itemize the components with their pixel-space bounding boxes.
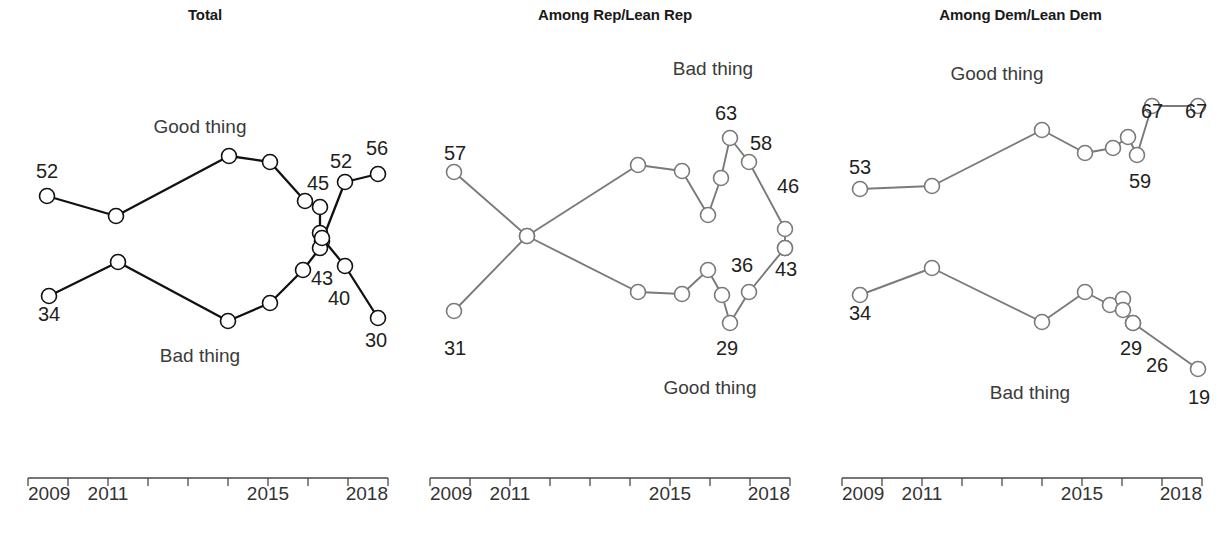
axis-tick-label: 2009: [842, 483, 884, 504]
data-point[interactable]: [313, 200, 328, 215]
chart-svg-total: Good thingBad thing524552563443403020092…: [0, 0, 410, 536]
value-label: 57: [444, 142, 466, 164]
data-point[interactable]: [742, 285, 757, 300]
series-good-thing: [447, 165, 793, 331]
value-label: 40: [328, 287, 350, 309]
data-point[interactable]: [723, 316, 738, 331]
panel-title-rep: Among Rep/Lean Rep: [410, 6, 820, 23]
axis-tick-label: 2015: [1061, 483, 1103, 504]
value-label: 19: [1188, 386, 1210, 408]
value-label: 58: [750, 132, 772, 154]
data-point[interactable]: [338, 175, 353, 190]
axis-tick-label: 2009: [430, 483, 472, 504]
data-point[interactable]: [714, 171, 729, 186]
data-point[interactable]: [40, 189, 55, 204]
value-label: 67: [1141, 100, 1163, 122]
x-axis: [430, 478, 790, 486]
data-point[interactable]: [1035, 315, 1050, 330]
value-label: 31: [444, 337, 466, 359]
series-name-label: Bad thing: [673, 58, 753, 79]
value-label: 26: [1146, 354, 1168, 376]
data-point[interactable]: [371, 167, 386, 182]
data-point[interactable]: [1078, 285, 1093, 300]
data-point[interactable]: [1106, 141, 1121, 156]
series-line: [454, 172, 785, 323]
series-name-label: Bad thing: [160, 345, 240, 366]
axis-tick-label: 2015: [247, 483, 289, 504]
axis-tick-label: 2009: [28, 483, 70, 504]
data-point[interactable]: [296, 263, 311, 278]
data-point[interactable]: [315, 231, 330, 246]
data-point[interactable]: [1126, 316, 1141, 331]
data-point[interactable]: [298, 194, 313, 209]
data-point[interactable]: [701, 208, 716, 223]
data-point[interactable]: [631, 158, 646, 173]
chart-panel-total: Total Good thingBad thing524552563443403…: [0, 0, 410, 536]
data-point[interactable]: [1116, 303, 1131, 318]
value-label: 46: [777, 175, 799, 197]
data-point[interactable]: [675, 164, 690, 179]
data-point[interactable]: [338, 259, 353, 274]
data-point[interactable]: [42, 289, 57, 304]
axis-tick-label: 2015: [649, 483, 691, 504]
x-axis: [842, 478, 1202, 486]
series-line: [454, 138, 785, 311]
data-point[interactable]: [263, 296, 278, 311]
data-point[interactable]: [109, 209, 124, 224]
data-point[interactable]: [778, 241, 793, 256]
chart-panel-rep: Among Rep/Lean Rep Bad thingGood thing57…: [410, 0, 820, 536]
value-label: 36: [731, 254, 753, 276]
data-point[interactable]: [263, 155, 278, 170]
data-point[interactable]: [221, 314, 236, 329]
value-label: 45: [307, 172, 329, 194]
data-point[interactable]: [447, 165, 462, 180]
panel-title-total: Total: [0, 6, 410, 23]
axis-tick-label: 2011: [902, 483, 943, 504]
series-bad-thing: [42, 231, 386, 329]
figure-root: Total Good thingBad thing524552563443403…: [0, 0, 1221, 536]
data-point[interactable]: [715, 288, 730, 303]
series-bad-thing: [447, 131, 793, 319]
x-axis: [28, 478, 388, 486]
value-label: 56: [366, 137, 388, 159]
data-point[interactable]: [1130, 148, 1145, 163]
series-name-label: Bad thing: [990, 382, 1070, 403]
data-point[interactable]: [371, 311, 386, 326]
axis-tick-label: 2011: [490, 483, 531, 504]
value-label: 43: [311, 267, 333, 289]
data-point[interactable]: [631, 285, 646, 300]
value-label: 52: [330, 150, 352, 172]
value-label: 59: [1129, 170, 1151, 192]
axis-tick-label: 2018: [346, 483, 388, 504]
data-point[interactable]: [520, 229, 535, 244]
value-label: 34: [38, 303, 60, 325]
data-point[interactable]: [701, 263, 716, 278]
value-label: 34: [849, 302, 871, 324]
data-point[interactable]: [675, 287, 690, 302]
data-point[interactable]: [111, 255, 126, 270]
chart-svg-dem: Good thingBad thing536767593429261920092…: [820, 0, 1221, 536]
data-point[interactable]: [447, 304, 462, 319]
data-point[interactable]: [853, 288, 868, 303]
chart-panel-dem: Among Dem/Lean Dem Good thingBad thing53…: [820, 0, 1221, 536]
data-point[interactable]: [925, 261, 940, 276]
value-label: 29: [716, 337, 738, 359]
value-label: 53: [849, 156, 871, 178]
value-label: 52: [36, 160, 58, 182]
chart-svg-rep: Bad thingGood thing573163584636432920092…: [410, 0, 820, 536]
data-point[interactable]: [1035, 123, 1050, 138]
panel-title-dem: Among Dem/Lean Dem: [820, 6, 1221, 23]
data-point[interactable]: [1078, 146, 1093, 161]
data-point[interactable]: [925, 179, 940, 194]
data-point[interactable]: [222, 149, 237, 164]
value-label: 29: [1120, 337, 1142, 359]
axis-tick-label: 2011: [88, 483, 129, 504]
value-label: 67: [1185, 100, 1207, 122]
data-point[interactable]: [723, 131, 738, 146]
data-point[interactable]: [742, 155, 757, 170]
data-point[interactable]: [1191, 362, 1206, 377]
series-name-label: Good thing: [154, 116, 247, 137]
data-point[interactable]: [1121, 130, 1136, 145]
data-point[interactable]: [778, 222, 793, 237]
data-point[interactable]: [853, 182, 868, 197]
